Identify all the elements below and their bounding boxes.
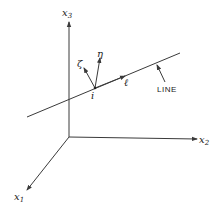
coordinate-diagram: x3 x2 x1 ζ η ℓ i LINE (0, 0, 220, 211)
point-i (94, 87, 97, 90)
eta-label: η (97, 48, 103, 59)
x2-axis (69, 137, 197, 139)
x1-label: x1 (14, 191, 24, 204)
x3-label: x3 (62, 7, 73, 20)
ell-label: ℓ (124, 77, 128, 88)
eta-vector (95, 58, 100, 88)
zeta-vector (84, 68, 95, 88)
x2-label: x2 (199, 134, 210, 147)
ell-vector (95, 76, 125, 88)
x1-axis (27, 137, 69, 190)
zeta-label: ζ (77, 58, 83, 69)
point-i-label: i (91, 90, 94, 101)
line-label: LINE (157, 85, 177, 94)
line-pointer-arrow (157, 65, 165, 82)
